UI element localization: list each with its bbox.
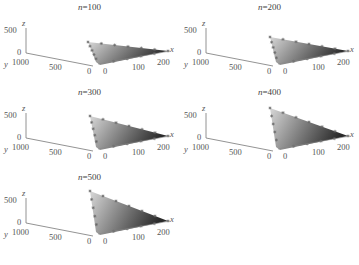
x-tick-0: 0 <box>103 152 107 161</box>
subplot-n400: n=400 z 500 0 y 1000 500 0 0 100 200 x <box>180 85 359 171</box>
y-axis-label: y <box>184 60 188 69</box>
x-axis-label: x <box>350 45 354 54</box>
y-tick-500: 500 <box>229 63 242 72</box>
y-tick-0: 0 <box>267 152 271 161</box>
subplot-n200: n=200 z 500 0 y 1000 500 0 0 100 200 x <box>180 0 359 86</box>
x-tick-0: 0 <box>283 67 287 76</box>
x-axis-label: x <box>170 130 174 139</box>
x-tick-200: 200 <box>157 58 170 67</box>
x-tick-0: 0 <box>103 237 107 246</box>
z-tick-0: 0 <box>17 218 21 227</box>
z-tick-0: 0 <box>17 133 21 142</box>
y-tick-500: 500 <box>49 233 62 242</box>
z-axis-label: z <box>202 19 205 28</box>
z-tick-0: 0 <box>197 48 201 57</box>
subplot-n500: n=500 z 500 0 y 1000 500 0 0 100 200 x <box>0 170 180 256</box>
z-tick-500: 500 <box>4 26 17 35</box>
y-axis-label: y <box>184 145 188 154</box>
z-axis-label: z <box>22 189 25 198</box>
y-axis-label: y <box>4 145 8 154</box>
y-tick-0: 0 <box>87 237 91 246</box>
z-tick-500: 500 <box>184 26 197 35</box>
x-tick-200: 200 <box>337 58 350 67</box>
y-axis-label: y <box>4 60 8 69</box>
x-tick-200: 200 <box>337 143 350 152</box>
y-tick-500: 500 <box>49 148 62 157</box>
z-axis-label: z <box>22 19 25 28</box>
x-axis-label: x <box>170 45 174 54</box>
x-axis-label: x <box>170 215 174 224</box>
z-tick-0: 0 <box>17 48 21 57</box>
x-tick-100: 100 <box>312 148 325 157</box>
subplot-n300: n=300 z 500 0 y 1000 500 0 0 100 200 x <box>0 85 180 171</box>
y-tick-1000: 1000 <box>192 58 209 67</box>
subplot-n100: n=100 z 500 0 y 1000 500 0 0 100 200 x <box>0 0 180 86</box>
y-tick-500: 500 <box>49 63 62 72</box>
z-tick-500: 500 <box>4 196 17 205</box>
x-tick-0: 0 <box>103 67 107 76</box>
y-axis-label: y <box>4 230 8 239</box>
x-tick-100: 100 <box>312 63 325 72</box>
z-tick-500: 500 <box>184 111 197 120</box>
y-tick-1000: 1000 <box>12 143 29 152</box>
x-axis-label: x <box>350 130 354 139</box>
z-axis-label: z <box>22 104 25 113</box>
y-tick-0: 0 <box>87 152 91 161</box>
z-tick-500: 500 <box>4 111 17 120</box>
y-tick-1000: 1000 <box>192 143 209 152</box>
x-tick-200: 200 <box>157 228 170 237</box>
x-tick-100: 100 <box>132 148 145 157</box>
y-tick-0: 0 <box>267 67 271 76</box>
z-tick-0: 0 <box>197 133 201 142</box>
y-tick-500: 500 <box>229 148 242 157</box>
y-tick-1000: 1000 <box>12 228 29 237</box>
z-axis-label: z <box>202 104 205 113</box>
x-tick-100: 100 <box>132 63 145 72</box>
y-tick-0: 0 <box>87 67 91 76</box>
x-tick-200: 200 <box>157 143 170 152</box>
x-tick-0: 0 <box>283 152 287 161</box>
x-tick-100: 100 <box>132 233 145 242</box>
y-tick-1000: 1000 <box>12 58 29 67</box>
